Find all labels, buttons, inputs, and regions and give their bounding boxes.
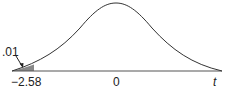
critical-value-label: −2.58 — [11, 76, 41, 88]
density-curve — [12, 3, 222, 71]
axis-variable-label: t — [213, 76, 216, 88]
tail-area-label: .01 — [2, 46, 19, 58]
center-label: 0 — [113, 76, 120, 88]
